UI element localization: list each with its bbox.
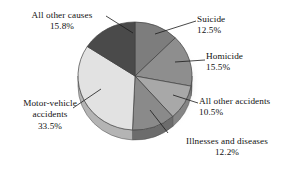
slice-label-name: Suicide [197,14,225,24]
slice-label-name: Homicide [206,51,243,61]
slice-label-name-2: accidents [2,109,98,120]
slice-label-percent: 10.5% [199,107,270,118]
slice-label-percent: 12.5% [197,25,225,36]
slice-label-all-other-accidents: All other accidents 10.5% [199,96,270,119]
slice-label-percent: 33.5% [2,121,98,132]
slice-label-name: Motor-vehicle [23,98,77,108]
slice-label-name: All other causes [32,10,93,20]
pie-chart-figure: Suicide 12.5%Homicide 15.5%All other acc… [0,0,290,170]
slice-label-homicide: Homicide 15.5% [206,51,243,74]
slice-label-suicide: Suicide 12.5% [197,14,225,37]
slice-label-percent: 12.2% [164,147,290,158]
slice-label-percent: 15.5% [206,62,243,73]
slice-label-illnesses-and-diseases: Illnesses and diseases 12.2% [164,136,290,159]
slice-label-name: Illnesses and diseases [186,136,268,146]
slice-label-name: All other accidents [199,96,270,106]
slice-label-percent: 15.8% [6,21,118,32]
slice-label-motor-vehicle-accidents: Motor-vehicle accidents 33.5% [2,98,98,132]
slice-label-all-other-causes: All other causes 15.8% [6,10,118,33]
